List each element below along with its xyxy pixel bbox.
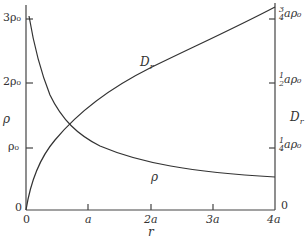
right-tick-3-4: 34aρ₀: [279, 6, 302, 22]
right-tick-1-2: 12aρ₀: [279, 72, 302, 88]
chart-plot: [0, 0, 307, 239]
curve-label-rho: ρ: [151, 171, 158, 183]
rho-curve: [29, 16, 275, 177]
left-tick-rho: ρ₀: [8, 141, 19, 152]
x-axis-label: r: [148, 226, 154, 238]
x-tick-2a: 2a: [144, 214, 158, 225]
left-tick-3rho: 3ρ₀: [3, 12, 21, 23]
curve-label-dr: Dr: [140, 56, 153, 71]
left-axis-label: ρ: [3, 113, 10, 125]
right-tick-0: 0: [281, 200, 288, 211]
left-tick-2rho: 2ρ₀: [3, 76, 21, 87]
x-tick-4a: 4a: [267, 214, 281, 225]
x-tick-0: 0: [23, 214, 30, 225]
x-tick-3a: 3a: [206, 214, 220, 225]
left-tick-0: 0: [15, 202, 22, 213]
x-tick-a: a: [85, 214, 92, 225]
right-tick-1-4: 14aρ₀: [279, 137, 302, 153]
right-axis-label: Dr: [290, 111, 303, 126]
